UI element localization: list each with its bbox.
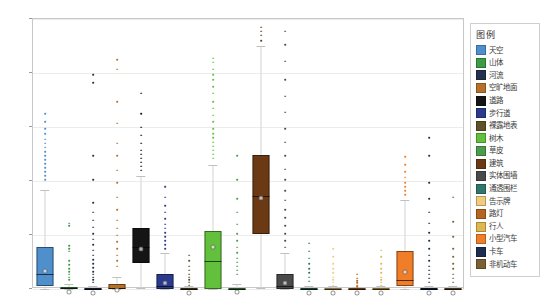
outlier-point [140, 135, 142, 137]
outlier-point [284, 190, 286, 192]
outlier-point [212, 149, 214, 151]
outlier-point [188, 270, 190, 272]
mean-marker [139, 247, 144, 252]
outlier-point [116, 59, 118, 61]
outlier-point [44, 128, 46, 130]
legend-item-6[interactable]: 裸露地表 [476, 120, 535, 133]
legend-color-swatch [476, 247, 486, 257]
mean-marker [403, 270, 408, 275]
legend-item-14[interactable]: 行人 [476, 220, 535, 233]
outlier-point [284, 199, 286, 201]
box-body [397, 251, 414, 286]
outlier-point [452, 197, 454, 199]
plot-frame-right-spine [463, 18, 464, 289]
legend-item-8[interactable]: 草皮 [476, 145, 535, 158]
outlier-point [380, 249, 382, 251]
outlier-point [68, 268, 70, 270]
outlier-point [404, 171, 406, 173]
outlier-point [44, 163, 46, 165]
legend-color-swatch [476, 159, 486, 169]
outlier-point [284, 233, 286, 235]
outlier-point [116, 101, 118, 103]
box-series [57, 19, 81, 287]
outlier-point [236, 247, 238, 249]
outlier-point [284, 179, 286, 181]
outlier-point [140, 149, 142, 151]
legend-item-17[interactable]: 非机动车 [476, 258, 535, 271]
whisker-cap [160, 289, 169, 290]
legend-item-label: 树木 [489, 135, 503, 143]
outlier-point [188, 279, 190, 281]
whisker-cap [40, 289, 49, 290]
outlier-point [44, 139, 46, 141]
outlier-point [284, 95, 286, 97]
outlier-point [284, 240, 286, 242]
outlier-point [92, 255, 94, 257]
legend-item-10[interactable]: 实体围墙 [476, 170, 535, 183]
outlier-point [428, 248, 430, 250]
outlier-point [44, 147, 46, 149]
outlier-point [212, 62, 214, 64]
legend-item-1[interactable]: 山体 [476, 57, 535, 70]
legend-item-9[interactable]: 建筑 [476, 157, 535, 170]
outlier-point [284, 168, 286, 170]
legend-items: 天空山体河流空旷地面道路步行道裸露地表树木草皮建筑实体围墙通透围栏告示牌路灯行人… [476, 44, 535, 271]
legend-item-11[interactable]: 通透围栏 [476, 183, 535, 196]
legend-color-swatch [476, 222, 486, 232]
outlier-point [308, 272, 310, 274]
legend-item-5[interactable]: 步行道 [476, 107, 535, 120]
legend-item-label: 卡车 [489, 248, 503, 256]
outlier-point [404, 164, 406, 166]
mean-marker [211, 244, 216, 249]
legend-color-swatch [476, 96, 486, 106]
mean-marker [163, 281, 168, 286]
outlier-point [284, 225, 286, 227]
outlier-point [428, 182, 430, 184]
outlier-point [380, 263, 382, 265]
outlier-point [116, 155, 118, 157]
outlier-point [284, 209, 286, 211]
outlier-point [428, 255, 430, 257]
legend-item-3[interactable]: 空旷地面 [476, 82, 535, 95]
outlier-point [164, 211, 166, 213]
outlier-point [452, 248, 454, 250]
legend-item-15[interactable]: 小型汽车 [476, 233, 535, 246]
outlier-point [236, 261, 238, 263]
outlier-point [92, 82, 94, 84]
median-line [157, 286, 174, 287]
legend-item-12[interactable]: 告示牌 [476, 195, 535, 208]
legend-item-13[interactable]: 路灯 [476, 208, 535, 221]
legend-item-16[interactable]: 卡车 [476, 246, 535, 259]
outlier-point [212, 128, 214, 130]
outlier-point [236, 179, 238, 181]
legend-color-swatch [476, 234, 486, 244]
outlier-point [164, 186, 166, 188]
outlier-point [212, 157, 214, 159]
outlier-point [332, 284, 334, 286]
legend-item-7[interactable]: 树木 [476, 132, 535, 145]
outlier-point [380, 282, 382, 284]
outlier-point [212, 79, 214, 81]
outlier-point [236, 265, 238, 267]
plot-area [32, 18, 464, 288]
outlier-point [428, 260, 430, 262]
legend-item-4[interactable]: 道路 [476, 94, 535, 107]
outlier-point [284, 155, 286, 157]
outlier-point [332, 276, 334, 278]
whisker-cap [232, 284, 241, 285]
outlier-point [260, 31, 262, 33]
outlier-point [380, 256, 382, 258]
outlier-point [308, 243, 310, 245]
legend-item-label: 天空 [489, 47, 503, 55]
legend-item-label: 通透围栏 [489, 185, 517, 193]
outlier-point [92, 202, 94, 204]
outlier-point [92, 179, 94, 181]
outlier-point [428, 155, 430, 157]
legend-item-2[interactable]: 河流 [476, 69, 535, 82]
whisker-cap [448, 286, 457, 287]
outlier-point [332, 256, 334, 258]
box-series [345, 19, 369, 287]
legend-item-0[interactable]: 天空 [476, 44, 535, 57]
legend-title: 图例 [476, 28, 535, 41]
whisker-cap [400, 289, 409, 290]
